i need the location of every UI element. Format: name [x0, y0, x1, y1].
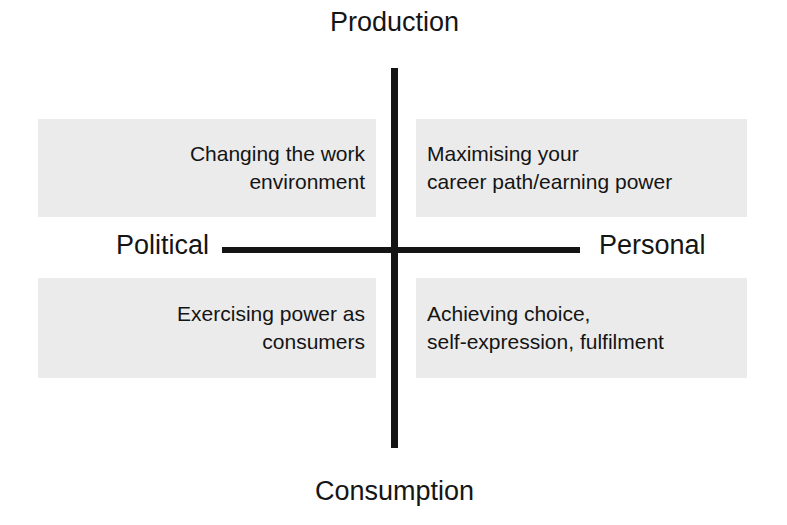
quadrant-text-bottom-right: Achieving choice, self-expression, fulfi… [416, 300, 747, 356]
quadrant-box-top-right: Maximising your career path/earning powe… [416, 119, 747, 217]
axis-label-production: Production [0, 8, 787, 38]
axis-label-political: Political [0, 231, 209, 261]
quadrant-text-top-left: Changing the work environment [38, 140, 376, 196]
quadrant-text-top-right: Maximising your career path/earning powe… [416, 140, 747, 196]
vertical-axis-line [391, 68, 398, 448]
quadrant-box-bottom-left: Exercising power as consumers [38, 278, 376, 378]
quadrant-diagram: Production Consumption Political Persona… [0, 0, 787, 525]
axis-label-consumption: Consumption [0, 477, 787, 507]
quadrant-box-bottom-right: Achieving choice, self-expression, fulfi… [416, 278, 747, 378]
axis-label-consumption-text: Consumption [315, 477, 474, 507]
quadrant-box-top-left: Changing the work environment [38, 119, 376, 217]
horizontal-axis-line [222, 247, 580, 253]
quadrant-text-bottom-left: Exercising power as consumers [38, 300, 376, 356]
axis-label-personal: Personal [599, 231, 706, 261]
axis-label-production-text: Production [330, 8, 459, 38]
